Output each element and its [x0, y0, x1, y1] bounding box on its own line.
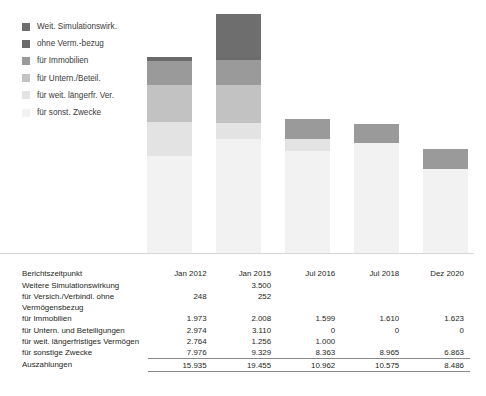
bar-segment-weit_langerfr [216, 123, 261, 138]
stacked-bar-chart [135, 14, 480, 262]
table-cell [341, 280, 405, 291]
table-cell: 248 [148, 291, 213, 313]
chart-plot-area [135, 14, 480, 254]
bar-segment-untern_beteil [216, 85, 261, 123]
bar-column-0 [135, 14, 204, 254]
data-table: Berichtszeitpunkt Jan 2012Jan 2015Jul 20… [22, 268, 470, 372]
table-row: für weit. längerfristiges Vermögen2.7641… [22, 336, 470, 347]
table-cell: 1.599 [277, 313, 341, 324]
bar-segment-sonst_zwecke [285, 151, 330, 254]
table-cell: 0 [277, 325, 341, 336]
bar-segment-immobilien [354, 124, 399, 144]
bar-column-2 [273, 14, 342, 254]
bar-segment-immobilien [147, 61, 192, 85]
table-cell: 2.764 [148, 336, 213, 347]
legend-swatch-icon [22, 57, 30, 65]
table-cell [405, 336, 470, 347]
table-total-cell: 8.486 [405, 359, 470, 372]
table-cell: 1.256 [213, 336, 278, 347]
table-row: für Untern. und Beteiligungen2.9743.1100… [22, 325, 470, 336]
table-cell: 0 [405, 325, 470, 336]
legend-swatch-icon [22, 23, 30, 31]
bar-segment-sonst_zwecke [423, 169, 468, 254]
table-row-label-line1: für sonstige Zwecke [22, 347, 148, 358]
table-row-label-line2: Vermögensbezug [22, 302, 148, 313]
legend-item-label: für weit. längerfr. Ver. [37, 91, 114, 100]
table-row-label-line1: für weit. längerfristiges Vermögen [22, 336, 148, 347]
table-row-label: für Versich./Verbindl. ohneVermögensbezu… [22, 291, 148, 313]
legend-item-label: für Immobilien [37, 56, 88, 65]
table-cell: 6.863 [405, 347, 470, 359]
table-cell: 2.974 [148, 325, 213, 336]
table-column-header: Jan 2012 [148, 268, 213, 280]
legend-swatch-icon [22, 40, 30, 48]
legend-swatch-icon [22, 74, 30, 82]
table-total-cell: 10.575 [341, 359, 405, 372]
bar-segment-weit_langerfr [147, 122, 192, 156]
bar-segment-weit_langerfr [285, 139, 330, 151]
table-cell: 2.008 [213, 313, 278, 324]
table-foot: Auszahlungen15.93519.45510.96210.5758.48… [22, 359, 470, 372]
bar-segment-untern_beteil [147, 85, 192, 122]
table-cell: 7.976 [148, 347, 213, 359]
table-row-label-line1: für Untern. und Beteiligungen [22, 325, 148, 336]
table-total-cell: 19.455 [213, 359, 278, 372]
bar-column-1 [204, 14, 273, 254]
legend-swatch-icon [22, 91, 30, 99]
table-total-row: Auszahlungen15.93519.45510.96210.5758.48… [22, 359, 470, 372]
table-cell [148, 280, 213, 291]
table-row-label: Weitere Simulationswirkung [22, 280, 148, 291]
table-column-header: Jul 2016 [277, 268, 341, 280]
legend-item-label: für Untern./Beteil. [37, 74, 101, 83]
stacked-bar [285, 119, 330, 254]
baseline-axis [0, 253, 474, 254]
bar-column-3 [342, 14, 411, 254]
legend-item-label: für sonst. Zwecke [37, 108, 101, 117]
table-column-header: Jan 2015 [213, 268, 278, 280]
table-cell: 8.965 [341, 347, 405, 359]
stacked-bar [354, 124, 399, 254]
table-cell: 9.329 [213, 347, 278, 359]
table-cell: 1.610 [341, 313, 405, 324]
table-cell: 8.363 [277, 347, 341, 359]
legend-item-label: Weit. Simulationswirk. [37, 22, 117, 31]
stacked-bar [423, 149, 468, 254]
table-row: für sonstige Zwecke7.9769.3298.3638.9656… [22, 347, 470, 359]
table-cell: 1.973 [148, 313, 213, 324]
table-head: Berichtszeitpunkt Jan 2012Jan 2015Jul 20… [22, 268, 470, 280]
table-row-label-line1: Weitere Simulationswirkung [22, 280, 148, 291]
table-total-cell: 10.962 [277, 359, 341, 372]
table-column-header: Jul 2018 [341, 268, 405, 280]
table-row-label: für sonstige Zwecke [22, 347, 148, 359]
table-cell: 1.623 [405, 313, 470, 324]
table-total-cell: 15.935 [148, 359, 213, 372]
table-cell: 3.110 [213, 325, 278, 336]
legend-swatch-icon [22, 109, 30, 117]
table-row: für Immobilien1.9732.0081.5991.6101.623 [22, 313, 470, 324]
bar-column-4 [411, 14, 480, 254]
table-row: für Versich./Verbindl. ohneVermögensbezu… [22, 291, 470, 313]
table-row-label-line1: für Immobilien [22, 313, 148, 324]
bar-segment-weitere_sim [216, 14, 261, 57]
bar-segment-immobilien [216, 60, 261, 85]
table-cell: 1.000 [277, 336, 341, 347]
table-cell [405, 291, 470, 313]
table-row: Weitere Simulationswirkung3.500 [22, 280, 470, 291]
bar-segment-immobilien [423, 149, 468, 169]
table-cell [405, 280, 470, 291]
table-cell [277, 280, 341, 291]
table-row-label: für Untern. und Beteiligungen [22, 325, 148, 336]
table-cell [277, 291, 341, 313]
table-column-header: Dez 2020 [405, 268, 470, 280]
table-cell [341, 336, 405, 347]
stacked-bar [216, 14, 261, 254]
bar-segment-sonst_zwecke [216, 139, 261, 254]
table-cell: 3.500 [213, 280, 278, 291]
table-cell: 0 [341, 325, 405, 336]
stacked-bar [147, 57, 192, 254]
table-cell [341, 291, 405, 313]
table-body: Weitere Simulationswirkung3.500für Versi… [22, 280, 470, 359]
table-total-label: Auszahlungen [22, 359, 148, 372]
table-header-label: Berichtszeitpunkt [22, 268, 148, 280]
table-row-label: für weit. längerfristiges Vermögen [22, 336, 148, 347]
